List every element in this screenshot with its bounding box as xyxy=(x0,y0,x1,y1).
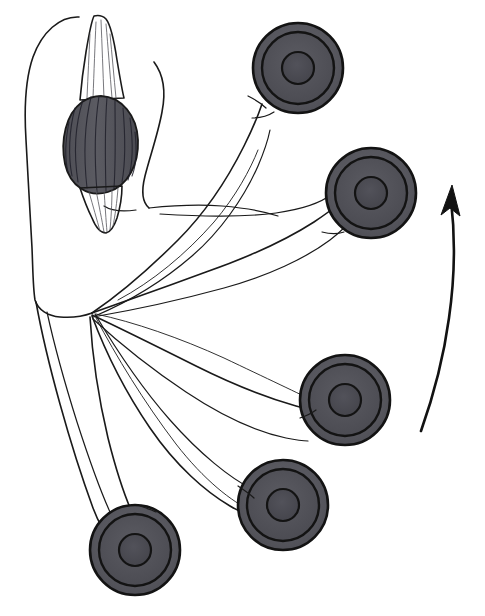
spindle-upper-pole xyxy=(80,16,124,100)
motor-end-plate-4 xyxy=(238,460,328,550)
muscle-belly-outline xyxy=(25,17,126,540)
fiber-2-lower xyxy=(93,225,347,317)
fiber-disc-junctions xyxy=(140,96,344,512)
motor-end-plate-1 xyxy=(253,23,343,113)
fiber-4-right xyxy=(95,314,268,496)
arrow-head xyxy=(441,185,460,216)
motor-end-plates xyxy=(90,23,416,595)
motor-end-plate-5 xyxy=(90,505,180,595)
anatomical-line-drawing xyxy=(0,0,485,616)
muscle-spindle xyxy=(63,16,138,233)
motor-end-plate-2 xyxy=(326,148,416,238)
fiber-3-lower xyxy=(93,319,308,441)
arrow-shaft xyxy=(421,200,454,431)
figure-canvas: Muscle spindle with motor end plates xyxy=(0,0,485,616)
motor-end-plate-3 xyxy=(300,355,390,445)
rotation-direction-arrow xyxy=(421,185,460,431)
